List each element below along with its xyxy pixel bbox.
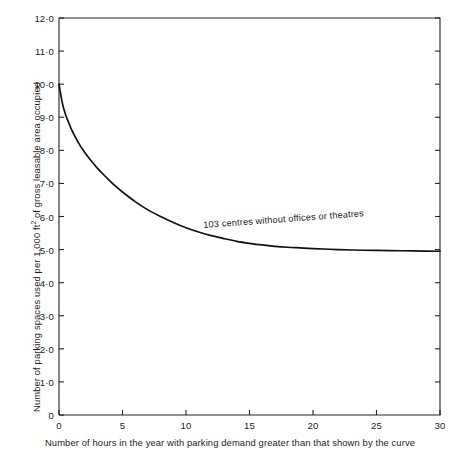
y-tick-label: 8·0 [26, 145, 54, 156]
y-tick-label: 6·0 [26, 211, 54, 222]
x-axis-ticks [59, 410, 440, 415]
y-tick-label: 9·0 [26, 112, 54, 123]
y-tick-label: 7·0 [26, 178, 54, 189]
x-tick-label: 5 [103, 420, 143, 431]
y-tick-label: 12·0 [26, 13, 54, 24]
x-axis-title: Number of hours in the year with parking… [0, 437, 460, 448]
x-tick-label: 0 [39, 420, 79, 431]
x-tick-label: 15 [230, 420, 270, 431]
x-tick-label: 25 [357, 420, 397, 431]
chart-figure: Number of parking spaces used per 1,000 … [0, 0, 460, 456]
y-tick-label: 4·0 [26, 277, 54, 288]
y-tick-label: 0 [26, 410, 54, 421]
x-tick-label: 20 [293, 420, 333, 431]
y-axis-tick-labels: 01·02·03·04·05·06·07·08·09·010·011·012·0 [22, 0, 54, 456]
y-tick-label: 2·0 [26, 343, 54, 354]
y-tick-label: 1·0 [26, 376, 54, 387]
y-tick-label: 11·0 [26, 46, 54, 57]
y-tick-label: 3·0 [26, 310, 54, 321]
y-tick-label: 5·0 [26, 244, 54, 255]
y-tick-label: 10·0 [26, 79, 54, 90]
x-axis-tick-labels: 051015202530 [0, 420, 460, 436]
x-tick-label: 30 [420, 420, 460, 431]
x-tick-label: 10 [166, 420, 206, 431]
